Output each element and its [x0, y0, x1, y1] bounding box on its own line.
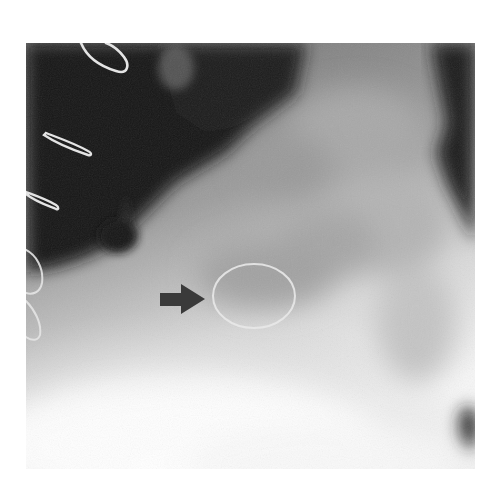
- grain: [26, 43, 475, 469]
- xray-image: [26, 43, 475, 469]
